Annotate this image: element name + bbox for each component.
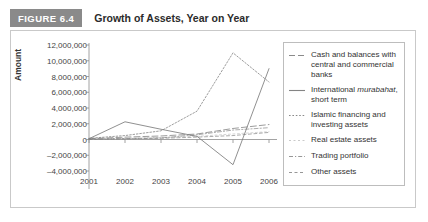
legend-line-swatch: [289, 50, 307, 61]
legend-item[interactable]: Other assets: [289, 167, 398, 178]
legend-line-swatch: [289, 110, 307, 121]
legend-item-label: Real estate assets: [311, 135, 377, 145]
legend-line-swatch: [289, 85, 307, 96]
plot-area: Amount 12,000,00010,000,0008,000,0006,00…: [11, 31, 283, 207]
legend-item-label: Cash and balances with central and comme…: [311, 50, 398, 80]
legend-line-swatch: [289, 151, 307, 162]
chart-panel: Amount 12,000,00010,000,0008,000,0006,00…: [10, 30, 416, 208]
legend-item[interactable]: Cash and balances with central and comme…: [289, 50, 398, 80]
legend-item-label: International murabahat, short term: [311, 85, 398, 105]
legend-item[interactable]: Islamic financing and investing assets: [289, 110, 398, 130]
legend-item[interactable]: Trading portfolio: [289, 151, 398, 162]
legend-item[interactable]: Real estate assets: [289, 135, 398, 146]
figure-number-badge: FIGURE 6.4: [10, 9, 82, 27]
legend-item-label: Islamic financing and investing assets: [311, 110, 398, 130]
chart-svg: [11, 31, 283, 207]
legend-item-label: Other assets: [311, 167, 356, 177]
data-series-line: [89, 53, 269, 138]
figure-header: FIGURE 6.4 Growth of Assets, Year on Yea…: [10, 9, 249, 27]
data-series-line: [89, 69, 269, 165]
figure-container: FIGURE 6.4 Growth of Assets, Year on Yea…: [0, 0, 428, 222]
legend-item-label: Trading portfolio: [311, 151, 369, 161]
legend-item[interactable]: International murabahat, short term: [289, 85, 398, 105]
figure-title: Growth of Assets, Year on Year: [82, 9, 249, 27]
legend-line-swatch: [289, 167, 307, 178]
chart-legend: Cash and balances with central and comme…: [283, 42, 405, 186]
legend-line-swatch: [289, 135, 307, 146]
